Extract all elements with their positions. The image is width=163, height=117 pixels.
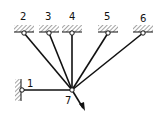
hinge-3 [47,31,51,35]
members [22,33,143,90]
hinge-6 [141,31,145,35]
hinge-4 [70,31,74,35]
node-label-4: 4 [69,11,75,22]
node-label-5: 5 [104,11,110,22]
hinge-7 [70,88,74,92]
truss-diagram: 2 3 4 5 6 1 7 [0,0,163,117]
member-6-7 [72,33,143,90]
node-label-3: 3 [45,11,51,22]
node-label-6: 6 [140,13,146,24]
node-label-7: 7 [65,95,71,106]
hinges [20,31,145,92]
node-label-1: 1 [27,78,33,89]
hinge-5 [106,31,110,35]
member-3-7 [49,33,72,90]
hinge-1 [20,88,24,92]
force-arrow-icon [72,90,85,111]
node-label-2: 2 [20,11,26,22]
member-5-7 [72,33,108,90]
hinge-2 [22,31,26,35]
